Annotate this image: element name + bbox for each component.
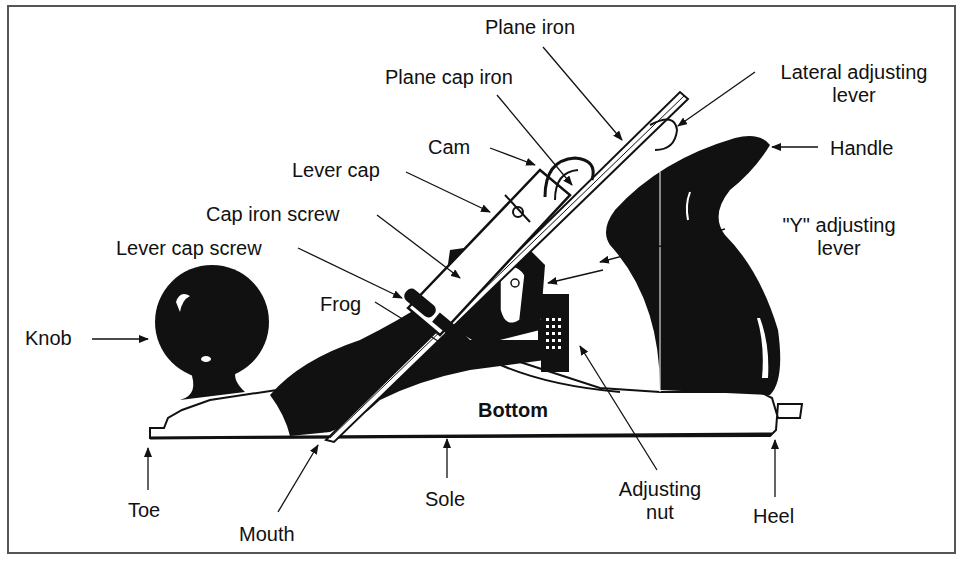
label-lever-cap: Lever cap (292, 159, 380, 182)
label-bottom: Bottom (478, 399, 548, 422)
label-heel: Heel (753, 505, 794, 528)
label-knob: Knob (25, 327, 72, 350)
label-adjusting-nut: Adjusting nut (600, 478, 720, 524)
label-handle: Handle (830, 137, 893, 160)
label-mouth: Mouth (239, 523, 295, 546)
label-y-adjusting-lever: "Y" adjusting lever (764, 214, 914, 260)
label-sole: Sole (425, 488, 465, 511)
label-cam: Cam (428, 136, 470, 159)
label-lateral-adjusting-lever: Lateral adjusting lever (764, 61, 944, 107)
label-frog: Frog (320, 293, 361, 316)
handle-shape (606, 136, 780, 395)
label-cap-iron-screw: Cap iron screw (206, 203, 339, 226)
label-plane-cap-iron: Plane cap iron (385, 66, 513, 89)
knob-shape (155, 265, 269, 400)
label-plane-iron: Plane iron (485, 16, 575, 39)
label-toe: Toe (128, 499, 160, 522)
label-lever-cap-screw: Lever cap screw (116, 237, 262, 260)
